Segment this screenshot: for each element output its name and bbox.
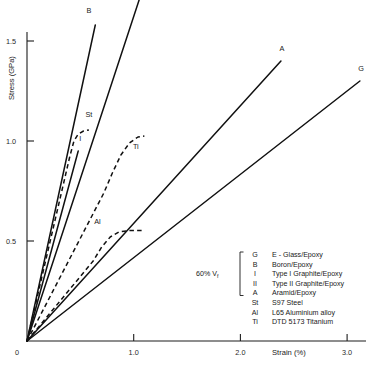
legend-row-text: DTD 5173 Titanium bbox=[272, 318, 333, 326]
legend-group-label-subscript: f bbox=[217, 273, 219, 279]
legend-row-text: Type I Graphite/Epoxy bbox=[272, 270, 343, 278]
legend-group-label: 60% Vf bbox=[196, 270, 219, 279]
origin-tick-label: 0 bbox=[15, 348, 19, 357]
legend-row-text: Boron/Epoxy bbox=[272, 261, 313, 269]
x-tick-label: 1.0 bbox=[129, 348, 139, 357]
x-axis-tick-labels: 1.02.03.0 bbox=[129, 348, 353, 357]
y-axis-title: Stress (GPa) bbox=[7, 56, 16, 100]
plot-canvas: 0.51.01.5 1.02.03.0 0 Strain (%) Stress … bbox=[0, 0, 371, 366]
curve-label-g: G bbox=[358, 64, 364, 73]
curve-label-i: I bbox=[79, 134, 81, 143]
curve-ti bbox=[27, 136, 144, 341]
curve-end-labels: BIIIAGStTiAl bbox=[79, 0, 364, 226]
legend-row-key: St bbox=[252, 299, 259, 307]
legend-row-text: S97 Steel bbox=[272, 299, 303, 307]
legend-row-key: Al bbox=[252, 309, 259, 317]
legend-rows: GE - Glass/EpoxyBBoron/EpoxyIType I Grap… bbox=[252, 251, 345, 326]
x-tick-label: 2.0 bbox=[235, 348, 245, 357]
y-tick-label: 0.5 bbox=[6, 237, 16, 246]
curve-label-a: A bbox=[280, 44, 285, 53]
curve-label-b: B bbox=[86, 6, 91, 15]
curve-label-st: St bbox=[85, 110, 92, 119]
legend: 60% Vf GE - Glass/EpoxyBBoron/EpoxyIType… bbox=[196, 251, 345, 326]
legend-row-text: L65 Aluminium alloy bbox=[272, 309, 336, 317]
curve-label-ti: Ti bbox=[133, 142, 139, 151]
y-axis-ticks bbox=[27, 41, 34, 241]
stress-strain-chart: 0.51.01.5 1.02.03.0 0 Strain (%) Stress … bbox=[0, 0, 371, 366]
curve-label-al: Al bbox=[94, 217, 101, 226]
y-tick-label: 1.0 bbox=[6, 137, 16, 146]
legend-bracket bbox=[240, 252, 244, 296]
legend-row-key: B bbox=[253, 261, 258, 269]
y-tick-label: 1.5 bbox=[6, 37, 16, 46]
legend-row-text: Type II Graphite/Epoxy bbox=[272, 280, 345, 288]
curve-ii bbox=[27, 0, 140, 341]
x-axis-title: Strain (%) bbox=[272, 348, 306, 357]
legend-row-key: A bbox=[253, 289, 258, 297]
legend-row-text: E - Glass/Epoxy bbox=[272, 251, 323, 259]
legend-row-key: Ti bbox=[252, 318, 258, 326]
legend-row-text: Aramid/Epoxy bbox=[272, 289, 317, 297]
legend-row-key: I bbox=[254, 270, 256, 278]
x-tick-label: 3.0 bbox=[342, 348, 352, 357]
x-axis-ticks bbox=[134, 334, 347, 341]
legend-row-key: II bbox=[253, 280, 257, 288]
curve-g bbox=[27, 81, 360, 341]
legend-row-key: G bbox=[252, 251, 258, 259]
